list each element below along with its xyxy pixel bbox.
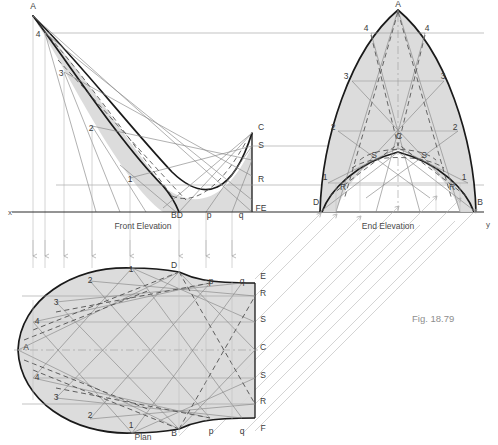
figure-caption: Fig. 18.79 — [412, 313, 454, 324]
plan-point-label: R — [260, 396, 266, 406]
plan-point-label: 4 — [35, 372, 40, 382]
plan-point-label: 1 — [129, 264, 134, 274]
plan-point-label: S — [260, 314, 266, 324]
front-elevation-point-label: S — [258, 140, 264, 150]
end-elevation-point-label: C — [396, 131, 402, 141]
plan-point-label: B — [171, 428, 177, 438]
end-elevation-point-label: B — [477, 197, 483, 207]
front-elevation-point-label: BD — [171, 210, 183, 220]
plan-point-label: 2 — [88, 275, 93, 285]
end-elevation-point-label: A — [395, 0, 401, 9]
plan-point-label: R — [260, 288, 266, 298]
plan-point-label: q — [240, 276, 245, 286]
end-elevation-point-label: 1 — [323, 172, 328, 182]
end-elevation-point-label: 4 — [425, 23, 430, 33]
figure-page: A4321CSRFEBDpqA44332211CSSRRDBA12344321D… — [0, 0, 498, 445]
plan-point-label: p — [209, 426, 214, 436]
plan-point-label: 3 — [54, 392, 59, 402]
end-elevation-point-label: D — [313, 197, 319, 207]
x-axis-label: x — [8, 208, 12, 217]
front-elevation-point-label: R — [258, 174, 264, 184]
end-elevation-point-label: R — [340, 182, 346, 192]
end-elevation-point-label: 3 — [344, 71, 349, 81]
front-elevation-point-label: C — [258, 122, 264, 132]
plan-view — [14, 268, 258, 433]
plan-point-label: F — [260, 423, 265, 433]
plan-point-label: C — [260, 342, 266, 352]
front-elevation-point-label: p — [207, 210, 212, 220]
front-elevation-point-label: 3 — [59, 68, 64, 78]
front-elevation-title: Front Elevation — [114, 221, 171, 231]
plan-point-label: p — [209, 276, 214, 286]
plan-point-label: A — [23, 342, 29, 352]
plan-title: Plan — [134, 432, 151, 442]
plan-point-label: E — [260, 271, 266, 281]
front-elevation-point-label: A — [30, 1, 36, 11]
end-elevation-point-label: S — [421, 150, 427, 160]
plan-point-label: 1 — [129, 420, 134, 430]
end-elevation-point-label: 2 — [331, 122, 336, 132]
front-elevation-point-label: 1 — [128, 174, 133, 184]
end-elevation-point-label: S — [371, 150, 377, 160]
end-elevation-point-label: 2 — [453, 122, 458, 132]
front-elevation-point-label: 4 — [36, 29, 41, 39]
plan-point-label: S — [260, 370, 266, 380]
plan-point-label: 4 — [35, 316, 40, 326]
engineering-drawing: A4321CSRFEBDpqA44332211CSSRRDBA12344321D… — [0, 0, 498, 445]
plan-point-label: D — [171, 260, 177, 270]
front-elevation-point-label: FE — [256, 203, 267, 213]
front-elevation-point-label: 2 — [89, 123, 94, 133]
end-elevation-point-label: 3 — [441, 71, 446, 81]
end-elevation-point-label: 4 — [364, 23, 369, 33]
end-elevation-point-label: R — [449, 182, 455, 192]
front-to-plan-projectors[interactable] — [33, 240, 232, 256]
front-elevation-point-label: q — [239, 210, 244, 220]
plan-point-label: 2 — [88, 410, 93, 420]
y-axis-label: y — [486, 220, 490, 229]
end-elevation-point-label: 1 — [462, 172, 467, 182]
plan-point-label: q — [240, 426, 245, 436]
end-elevation-title: End Elevation — [362, 221, 415, 231]
plan-point-label: 3 — [54, 297, 59, 307]
